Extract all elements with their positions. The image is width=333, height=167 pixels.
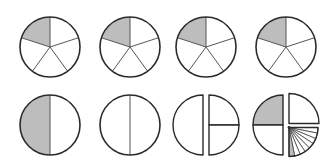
right-bottom-quarter	[209, 125, 239, 155]
right-top-quarter	[209, 95, 239, 125]
halves-circle	[100, 95, 160, 155]
unshaded-quarter	[253, 125, 283, 155]
fifths-circle	[100, 17, 160, 77]
fraction-diagram	[0, 0, 333, 167]
split-halves-figure	[173, 95, 239, 155]
unshaded-half	[50, 95, 80, 155]
left-half-piece	[173, 95, 203, 155]
shaded-half	[20, 95, 50, 155]
fan-center-dot	[288, 126, 291, 129]
unshaded-quarter	[289, 94, 319, 124]
shaded-quarter	[253, 95, 283, 125]
fifths-circle	[256, 17, 316, 77]
halves-circle-shaded	[20, 95, 80, 155]
fifths-circle	[176, 17, 236, 77]
fifths-circle	[20, 17, 80, 77]
exploded-figure	[253, 94, 319, 157]
